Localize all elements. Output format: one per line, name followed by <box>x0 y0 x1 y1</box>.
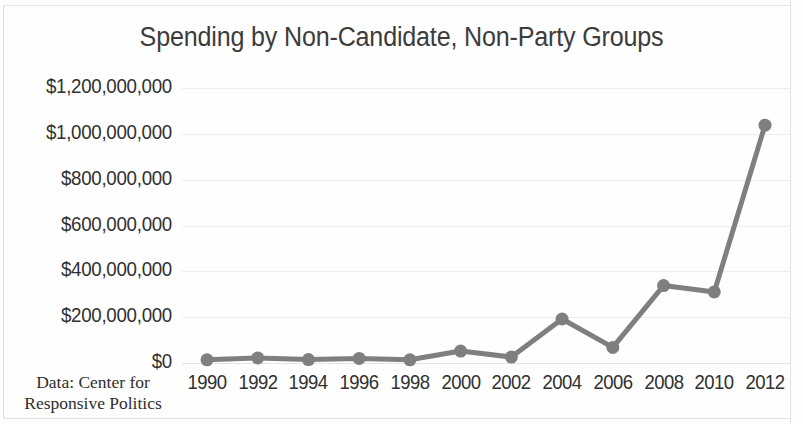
x-axis: 1990199219941996199820002002200420062008… <box>182 371 790 401</box>
data-point-marker <box>657 279 670 292</box>
data-point-marker <box>759 119 772 132</box>
gridline <box>182 363 790 364</box>
plot-area <box>182 88 790 363</box>
x-tick-label: 2000 <box>441 371 480 394</box>
page-border-right <box>790 0 791 424</box>
data-point-marker <box>302 353 315 366</box>
chart-figure: Spending by Non-Candidate, Non-Party Gro… <box>0 0 803 424</box>
x-tick-label: 2002 <box>492 371 531 394</box>
data-point-marker <box>454 345 467 358</box>
source-line-1: Data: Center for <box>2 372 184 393</box>
data-point-marker <box>505 351 518 364</box>
x-tick-label: 2006 <box>593 371 632 394</box>
y-tick-label: $800,000,000 <box>7 167 172 190</box>
y-tick-label: $200,000,000 <box>7 304 172 327</box>
data-point-marker <box>201 353 214 366</box>
y-axis: $0$200,000,000$400,000,000$600,000,000$8… <box>0 0 172 424</box>
y-tick-label: $400,000,000 <box>7 258 172 281</box>
x-tick-label: 1996 <box>340 371 379 394</box>
x-tick-label: 2008 <box>644 371 683 394</box>
x-tick-label: 1992 <box>238 371 277 394</box>
data-point-marker <box>708 285 721 298</box>
y-tick-label: $0 <box>7 350 172 373</box>
data-point-marker <box>251 351 264 364</box>
x-tick-label: 2004 <box>543 371 582 394</box>
x-tick-label: 1998 <box>390 371 429 394</box>
series-line-chart <box>182 88 790 363</box>
source-annotation: Data: Center for Responsive Politics <box>2 372 184 414</box>
data-point-marker <box>606 341 619 354</box>
source-line-2: Responsive Politics <box>2 393 184 414</box>
x-tick-label: 1990 <box>188 371 227 394</box>
data-point-marker <box>353 352 366 365</box>
data-point-marker <box>556 313 569 326</box>
series-line <box>207 125 765 360</box>
x-tick-label: 2010 <box>695 371 734 394</box>
y-tick-label: $1,200,000,000 <box>7 75 172 98</box>
x-tick-label: 1994 <box>289 371 328 394</box>
x-tick-label: 2012 <box>746 371 785 394</box>
data-point-marker <box>403 353 416 366</box>
y-tick-label: $1,000,000,000 <box>7 121 172 144</box>
y-tick-label: $600,000,000 <box>7 213 172 236</box>
